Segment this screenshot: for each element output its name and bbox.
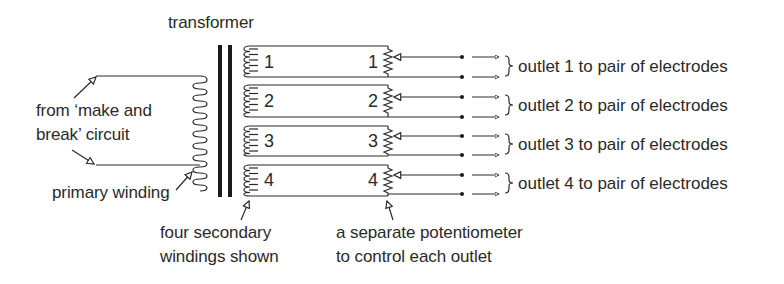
secondary-pointer: [241, 201, 249, 220]
winding-4-right-number: 4: [368, 171, 378, 189]
brace-icon: [505, 95, 513, 115]
secondary-winding-4: [244, 165, 462, 196]
outlet-1-label: outlet 1 to pair of electrodes: [518, 58, 728, 75]
brace-icon: [505, 56, 513, 76]
secondary-coil-icon: [244, 46, 250, 77]
primary-coil-icon: [193, 76, 207, 191]
secondary-winding-2: [244, 85, 462, 117]
potentiometer-pointer: [387, 201, 393, 220]
winding-4-left-number: 4: [264, 171, 274, 189]
terminal-dots: [460, 55, 464, 196]
outlet-arrows: [472, 57, 499, 194]
brace-icon: [505, 173, 513, 193]
outlet-2-label: outlet 2 to pair of electrodes: [518, 97, 728, 114]
outlet-braces: [505, 56, 513, 193]
winding-3-right-number: 3: [368, 132, 378, 150]
transformer-title: transformer: [168, 14, 254, 31]
winding-1-left-number: 1: [264, 53, 274, 71]
potentiometer-label-line2: to control each outlet: [336, 248, 492, 265]
winding-2-right-number: 2: [368, 92, 378, 110]
brace-icon: [505, 134, 513, 154]
secondary-winding-1: [244, 46, 462, 77]
primary-winding-label: primary winding: [52, 184, 170, 201]
winding-3-left-number: 3: [264, 132, 274, 150]
potentiometer-label-line1: a separate potentiometer: [336, 224, 523, 241]
outlet-4-label: outlet 4 to pair of electrodes: [518, 175, 728, 192]
transformer-core: [218, 45, 232, 197]
secondary-winding-3: [244, 126, 462, 156]
outlet-3-label: outlet 3 to pair of electrodes: [518, 136, 728, 153]
secondary-windings-label-line2: windings shown: [160, 248, 279, 265]
potentiometer-icon: [384, 46, 392, 77]
make-break-label-line2: break’ circuit: [36, 126, 129, 143]
winding-1-right-number: 1: [368, 53, 378, 71]
make-break-label-line1: from ‘make and: [36, 102, 152, 119]
winding-2-left-number: 2: [264, 92, 274, 110]
secondary-windings-label-line1: four secondary: [160, 224, 271, 241]
